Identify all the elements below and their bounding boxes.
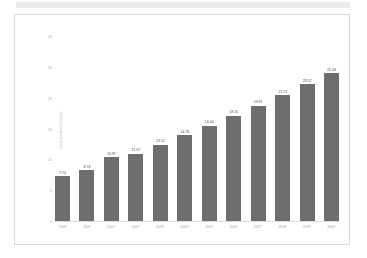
y-axis-tick-label: 30 — [48, 35, 52, 39]
bar-rect[interactable] — [153, 145, 168, 221]
bar-column[interactable]: 19.91 — [251, 47, 266, 221]
bar-rect[interactable] — [79, 170, 94, 221]
x-axis-tick-label: 2020 — [79, 225, 94, 229]
y-axis-tick-label: 10 — [48, 158, 52, 162]
x-axis-tick-label: 2026* — [226, 225, 241, 229]
x-axis-tick-label: 2030* — [324, 225, 339, 229]
bar-column[interactable]: 14.76 — [177, 47, 192, 221]
bar-column[interactable]: 8.74 — [79, 47, 94, 221]
x-axis-tick-label: 2022* — [128, 225, 143, 229]
x-axis-tick-label: 2023* — [153, 225, 168, 229]
bar-value-label: 14.76 — [180, 130, 189, 134]
bar-value-label: 8.74 — [84, 165, 91, 169]
chart-frame: Investment Amount in Billions 30 25 20 1… — [14, 14, 350, 245]
x-axis-tick-label: 2021* — [104, 225, 119, 229]
x-axis-tick-label: 2028* — [275, 225, 290, 229]
y-axis-tick-label: 0 — [50, 220, 52, 224]
bar-rect[interactable] — [55, 176, 70, 221]
bar-column[interactable]: 23.57 — [300, 47, 315, 221]
bar-value-label: 11.57 — [132, 148, 140, 152]
x-axis-tick-label: 2025* — [202, 225, 217, 229]
y-axis-tick-label: 5 — [50, 189, 52, 193]
bar-column[interactable]: 16.44 — [202, 47, 217, 221]
bar-value-label: 13.15 — [156, 139, 165, 143]
plot-area: Investment Amount in Billions 30 25 20 1… — [55, 37, 339, 222]
bar-rect[interactable] — [251, 106, 266, 221]
x-axis-tick-label: 2027* — [251, 225, 266, 229]
header-band — [16, 2, 350, 8]
x-axis-tick-label: 2019 — [55, 225, 70, 229]
bar-column[interactable]: 10.97 — [104, 47, 119, 221]
bar-value-label: 21.72 — [278, 90, 287, 94]
bar-value-label: 7.74 — [59, 171, 66, 175]
bar-value-label: 25.44 — [327, 68, 336, 72]
bar-column[interactable]: 21.72 — [275, 47, 290, 221]
bar-rect[interactable] — [128, 154, 143, 221]
x-axis-labels: 2019 2020 2021* 2022* 2023* 2024* 2025* … — [55, 225, 339, 229]
bar-rect[interactable] — [275, 95, 290, 221]
bar-rect[interactable] — [300, 84, 315, 221]
x-axis-tick-label: 2029* — [300, 225, 315, 229]
y-axis-tick-label: 25 — [48, 66, 52, 70]
bar-value-label: 23.57 — [303, 79, 312, 83]
bar-rect[interactable] — [324, 73, 339, 221]
bar-value-label: 18.15 — [229, 110, 238, 114]
bar-column[interactable]: 13.15 — [153, 47, 168, 221]
bar-value-label: 19.91 — [254, 100, 263, 104]
bar-series: 7.74 8.74 10.97 11.57 13.15 14.76 — [55, 47, 339, 221]
bar-rect[interactable] — [104, 157, 119, 221]
y-axis-tick-label: 15 — [48, 128, 52, 132]
bar-value-label: 16.44 — [205, 120, 214, 124]
bar-rect[interactable] — [202, 126, 217, 221]
bar-column[interactable]: 18.15 — [226, 47, 241, 221]
bar-column[interactable]: 11.57 — [128, 47, 143, 221]
bar-value-label: 10.97 — [107, 152, 116, 156]
y-axis-tick-label: 20 — [48, 97, 52, 101]
bar-column[interactable]: 7.74 — [55, 47, 70, 221]
bar-column[interactable]: 25.44 — [324, 47, 339, 221]
x-axis-line — [55, 221, 339, 222]
x-axis-tick-label: 2024* — [177, 225, 192, 229]
bar-rect[interactable] — [177, 135, 192, 221]
bar-rect[interactable] — [226, 116, 241, 221]
